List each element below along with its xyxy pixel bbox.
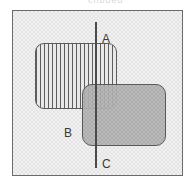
label-b: B — [64, 127, 72, 139]
universe-box: A B C — [12, 10, 183, 176]
label-c: C — [102, 158, 111, 170]
diagram-stage: A B C — [13, 11, 182, 175]
clipped-caption-text: clipped — [88, 0, 148, 3]
venn-diagram-figure: clipped A B C — [0, 0, 196, 187]
label-a: A — [102, 33, 110, 45]
vertical-divider-line-c[interactable] — [95, 22, 97, 168]
